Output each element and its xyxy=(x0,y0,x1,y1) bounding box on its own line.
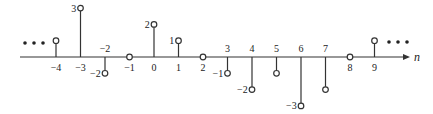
tick-label: 4 xyxy=(250,43,255,54)
stem-marker-icon xyxy=(200,54,206,60)
stem-n5 xyxy=(274,57,280,76)
stem-n3 xyxy=(225,57,231,76)
stem-n-3 xyxy=(78,5,84,57)
value-label: −2 xyxy=(237,84,248,95)
axis-label-n: n xyxy=(414,50,420,64)
value-label: −3 xyxy=(286,100,297,111)
stem-n0 xyxy=(151,22,157,57)
value-label: 1 xyxy=(169,35,174,46)
tick-label: −1 xyxy=(124,62,135,73)
tick-label: 7 xyxy=(323,43,328,54)
stem-marker-icon xyxy=(274,71,280,77)
value-label: −1 xyxy=(213,68,224,79)
axis-arrow-icon xyxy=(403,54,410,60)
ellipsis-left xyxy=(23,41,45,45)
stem-n7 xyxy=(323,57,329,92)
stem-marker-icon xyxy=(127,54,133,60)
ellipsis-dot-icon xyxy=(387,40,391,44)
ellipsis-dot-icon xyxy=(23,41,27,45)
ellipsis-dot-icon xyxy=(32,41,36,45)
stem-plot: n −4−3−2−10123456789 3−221−1−2−3 xyxy=(0,0,433,114)
value-label: 2 xyxy=(145,19,150,30)
stem-n4 xyxy=(249,57,255,92)
value-label: −2 xyxy=(90,68,101,79)
ellipsis-dot-icon xyxy=(405,40,409,44)
stem-marker-icon xyxy=(347,54,353,60)
tick-label: −3 xyxy=(75,62,86,73)
tick-label: 6 xyxy=(299,43,304,54)
stem-marker-icon xyxy=(249,87,255,93)
stem-marker-icon xyxy=(151,22,157,28)
tick-label: 8 xyxy=(348,62,353,73)
stem-marker-icon xyxy=(176,38,182,44)
stem-n2 xyxy=(200,54,206,60)
stem-n1 xyxy=(176,38,182,57)
tick-label: 1 xyxy=(176,62,181,73)
value-label: 3 xyxy=(71,3,76,14)
tick-label: 9 xyxy=(372,62,377,73)
tick-label: −4 xyxy=(51,62,62,73)
stem-marker-icon xyxy=(323,87,329,93)
stem-n9 xyxy=(372,38,378,57)
ellipsis-dot-icon xyxy=(396,40,400,44)
stem-marker-icon xyxy=(372,38,378,44)
stem-n-2 xyxy=(102,57,108,76)
stem-marker-icon xyxy=(53,38,59,44)
ellipsis-dot-icon xyxy=(41,41,45,45)
stem-n-4 xyxy=(53,38,59,57)
stem-n-1 xyxy=(127,54,133,60)
tick-label: 0 xyxy=(152,62,157,73)
tick-label: 3 xyxy=(225,43,230,54)
ellipsis-right xyxy=(387,40,409,44)
tick-label: −2 xyxy=(100,43,111,54)
stem-n8 xyxy=(347,54,353,60)
tick-label: 2 xyxy=(201,62,206,73)
stem-n6 xyxy=(298,57,304,109)
stem-marker-icon xyxy=(298,103,304,109)
stem-marker-icon xyxy=(78,5,84,11)
stem-marker-icon xyxy=(102,71,108,77)
tick-label: 5 xyxy=(274,43,279,54)
stem-marker-icon xyxy=(225,71,231,77)
